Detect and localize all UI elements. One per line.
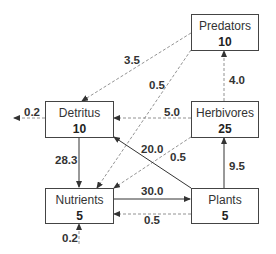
flow-label-detritus-nutrients: 28.3 — [55, 154, 77, 166]
node-plants: Plants 5 — [191, 188, 259, 224]
node-nutrients: Nutrients 5 — [45, 188, 114, 224]
node-nutrients-name: Nutrients — [46, 193, 113, 207]
node-predators: Predators 10 — [191, 14, 259, 51]
flow-label-predators-detritus: 3.5 — [124, 54, 140, 66]
flow-label-herbivores-nutrients: 0.5 — [170, 151, 186, 163]
node-detritus-value: 10 — [46, 122, 113, 137]
flow-label-nutrients-import: 0.2 — [62, 232, 78, 244]
node-detritus-name: Detritus — [46, 106, 113, 120]
flow-label-plants-herbivores: 9.5 — [229, 160, 245, 172]
arrow-predators-detritus — [82, 33, 191, 101]
node-predators-value: 10 — [192, 35, 258, 50]
node-nutrients-value: 5 — [46, 209, 113, 224]
node-herbivores-name: Herbivores — [192, 106, 258, 120]
node-plants-value: 5 — [192, 209, 258, 224]
flow-label-predators-nutrients: 0.5 — [149, 79, 165, 91]
flow-label-plants-detritus: 20.0 — [141, 143, 163, 155]
node-predators-name: Predators — [192, 19, 258, 33]
node-herbivores: Herbivores 25 — [191, 101, 259, 138]
node-herbivores-value: 25 — [192, 122, 258, 137]
node-plants-name: Plants — [192, 193, 258, 207]
flow-label-detritus-export: 0.2 — [24, 106, 40, 118]
flow-label-herbivores-predators: 4.0 — [229, 74, 245, 86]
flow-label-herbivores-detritus: 5.0 — [164, 106, 180, 118]
node-detritus: Detritus 10 — [45, 101, 114, 138]
flow-label-plants-nutrients: 0.5 — [144, 214, 160, 226]
flow-label-nutrients-plants: 30.0 — [141, 185, 163, 197]
